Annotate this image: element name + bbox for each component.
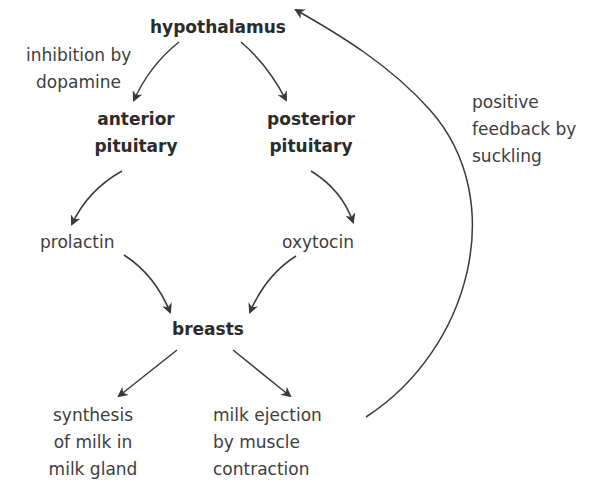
milk-ejection-line-2: by muscle <box>213 429 322 456</box>
inhibition-line-2: dopamine <box>26 69 131 96</box>
oxytocin-label: oxytocin <box>282 232 354 252</box>
inhibition-line-1: inhibition by <box>26 42 131 69</box>
prolactin-label: prolactin <box>40 232 114 252</box>
arrow-feedback-to-hypothalamus <box>296 10 472 417</box>
node-breasts: breasts <box>172 316 244 343</box>
synthesis-line-3: milk gland <box>38 456 148 483</box>
arrow-anterior-to-prolactin <box>72 171 122 224</box>
feedback-line-3: suckling <box>472 143 576 170</box>
milk-ejection-line-1: milk ejection <box>213 402 322 429</box>
arrow-breasts-to-milk-ejection <box>233 350 290 396</box>
feedback-line-2: feedback by <box>472 116 576 143</box>
annotation-inhibition-by-dopamine: inhibition by dopamine <box>26 42 131 96</box>
node-posterior-pituitary: posterior pituitary <box>256 106 366 160</box>
node-milk-ejection: milk ejection by muscle contraction <box>213 402 322 483</box>
arrow-hypothalamus-to-anterior <box>134 42 179 100</box>
arrow-prolactin-to-breasts <box>124 255 170 312</box>
posterior-line-1: posterior <box>256 106 366 133</box>
arrow-breasts-to-synthesis <box>119 350 177 396</box>
feedback-line-1: positive <box>472 89 576 116</box>
node-hypothalamus: hypothalamus <box>150 14 286 41</box>
arrow-posterior-to-oxytocin <box>311 171 353 222</box>
synthesis-line-2: of milk in <box>38 429 148 456</box>
breasts-label: breasts <box>172 319 244 339</box>
milk-ejection-line-3: contraction <box>213 456 322 483</box>
anterior-line-2: pituitary <box>86 133 186 160</box>
posterior-line-2: pituitary <box>256 133 366 160</box>
node-synthesis-of-milk: synthesis of milk in milk gland <box>38 402 148 483</box>
lactation-control-diagram: hypothalamus inhibition by dopamine ante… <box>0 0 593 496</box>
synthesis-line-1: synthesis <box>38 402 148 429</box>
arrow-hypothalamus-to-posterior <box>241 42 286 100</box>
hypothalamus-label: hypothalamus <box>150 17 286 37</box>
annotation-positive-feedback: positive feedback by suckling <box>472 89 576 170</box>
node-anterior-pituitary: anterior pituitary <box>86 106 186 160</box>
node-oxytocin: oxytocin <box>282 229 354 256</box>
anterior-line-1: anterior <box>86 106 186 133</box>
node-prolactin: prolactin <box>40 229 114 256</box>
arrow-oxytocin-to-breasts <box>250 256 296 312</box>
